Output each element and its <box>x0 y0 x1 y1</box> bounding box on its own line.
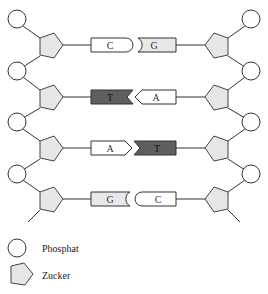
legend-sugar-label: Zucker <box>42 270 71 281</box>
base-label-right: T <box>154 143 160 154</box>
legend-phosphate-label: Phosphat <box>42 243 79 254</box>
sugar-icon <box>40 33 63 58</box>
base-pair-row-3: A T <box>91 141 176 155</box>
base-label-left: A <box>106 143 114 154</box>
sugar-icon <box>40 187 63 212</box>
phosphate-icon <box>8 62 26 80</box>
base-label-left: T <box>107 92 113 103</box>
sugar-icon <box>40 85 63 110</box>
base-label-left: C <box>107 40 114 51</box>
legend: Phosphat Zucker <box>8 239 79 285</box>
sugar-icon <box>205 187 228 212</box>
phosphate-legend-icon <box>8 239 26 257</box>
base-label-left: G <box>106 194 113 205</box>
base-pair-row-2: T A <box>91 90 176 104</box>
phosphate-icon <box>8 113 26 131</box>
base-pair-row-4: G C <box>91 192 176 206</box>
dna-diagram: C G T A A T G C Phosphat Zucker <box>0 0 268 294</box>
phosphate-icon <box>8 165 26 183</box>
sugar-icon <box>40 136 63 161</box>
base-connectors <box>63 45 205 199</box>
base-label-right: A <box>152 92 160 103</box>
sugar-icon <box>205 85 228 110</box>
base-label-right: G <box>150 40 157 51</box>
base-label-right: C <box>155 194 162 205</box>
phosphate-icon <box>8 10 26 28</box>
phosphate-icon <box>242 165 260 183</box>
sugar-legend-icon <box>11 263 33 285</box>
phosphate-icon <box>242 62 260 80</box>
phosphate-icon <box>242 10 260 28</box>
base-pair-row-1: C G <box>91 38 176 52</box>
sugar-icon <box>205 136 228 161</box>
sugar-icon <box>205 33 228 58</box>
right-backbone <box>205 10 260 222</box>
phosphate-icon <box>242 113 260 131</box>
left-backbone <box>8 10 63 222</box>
